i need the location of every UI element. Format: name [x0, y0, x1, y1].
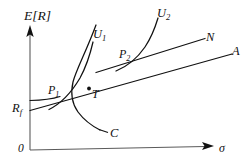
frontier-label-text: C: [110, 126, 119, 140]
rf-label-subscript: f: [20, 107, 24, 117]
y-axis-label-text: E[R]: [23, 8, 51, 23]
tangency-label: T: [92, 87, 100, 101]
u1-label: U1: [93, 27, 106, 43]
p2-label-subscript: 2: [126, 54, 130, 63]
line-n-label: N: [205, 30, 215, 44]
figure-container: E[R] σ 0 Rf U1 U2 P1 P2 T C N A: [0, 0, 242, 161]
p2-label: P2: [118, 47, 130, 63]
x-axis: [30, 147, 205, 151]
u1-label-subscript: 1: [102, 33, 106, 43]
frontier-label: C: [110, 126, 119, 140]
y-axis-label: E[R]: [23, 8, 51, 23]
diagram-svg: E[R] σ 0 Rf U1 U2 P1 P2 T C N A: [0, 0, 242, 161]
line-a-label-text: A: [231, 44, 240, 58]
curve-indifference-U2: [116, 18, 158, 71]
line-borrowing-N: [96, 39, 205, 73]
x-axis-label-text: σ: [219, 141, 226, 155]
p1-label: P1: [47, 83, 59, 99]
u2-label-subscript: 2: [166, 12, 171, 22]
origin-label-text: 0: [18, 142, 24, 154]
p1-label-subscript: 1: [55, 90, 59, 99]
rf-label: Rf: [11, 101, 24, 117]
rf-label-text: R: [11, 101, 20, 115]
line-a-label: A: [231, 44, 240, 58]
origin-label: 0: [18, 142, 24, 154]
tangency-point-T-marker: [87, 87, 91, 91]
c-label-leader-line: [99, 130, 108, 133]
x-axis-label: σ: [219, 141, 226, 155]
line-n-label-text: N: [205, 30, 215, 44]
u2-label: U2: [157, 6, 171, 22]
tangency-label-text: T: [92, 87, 100, 101]
